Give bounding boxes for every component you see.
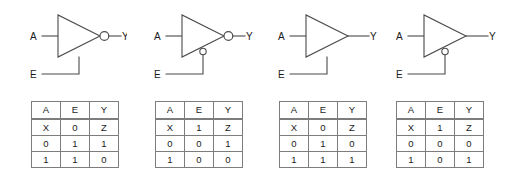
enable-wire-e — [290, 57, 327, 74]
cell-y: 1 — [338, 152, 367, 168]
table-row: 1 1 1 — [280, 152, 367, 168]
enable-label-e: E — [278, 69, 285, 80]
cell-y: 1 — [90, 136, 119, 152]
cell-e: 1 — [61, 152, 90, 168]
table-row: 0 0 1 — [156, 136, 243, 152]
cell-e: 1 — [426, 119, 455, 136]
enable-bubble-icon — [200, 48, 206, 54]
gate-body-triangle — [58, 15, 100, 57]
truth-table-gate-4: A E Y X 1 Z 0 0 0 1 0 — [396, 101, 484, 168]
cell-y: Z — [90, 119, 119, 136]
gate-cell-2: A E Y A E Y X 1 Z 0 — [126, 0, 253, 174]
cell-a: 1 — [280, 152, 309, 168]
truth-table-gate-3: A E Y X 0 Z 0 1 0 1 1 — [279, 101, 367, 168]
enable-bubble-icon — [442, 48, 448, 54]
cell-y: 1 — [455, 152, 484, 168]
cell-y: 0 — [338, 136, 367, 152]
cell-a: 0 — [156, 136, 185, 152]
table-row: X 0 Z — [280, 119, 367, 136]
table-row: X 1 Z — [156, 119, 243, 136]
cell-e: 0 — [309, 119, 338, 136]
enable-wire-e — [166, 55, 203, 74]
column-header-y: Y — [338, 102, 367, 120]
enable-label-e: E — [154, 69, 161, 80]
column-header-y: Y — [90, 102, 119, 120]
column-header-e: E — [185, 102, 214, 120]
cell-a: 0 — [280, 136, 309, 152]
gate-body-triangle — [306, 15, 348, 57]
column-header-a: A — [32, 102, 61, 120]
input-label-a: A — [30, 31, 37, 42]
column-header-e: E — [426, 102, 455, 120]
table-row: 0 1 0 — [280, 136, 367, 152]
column-header-a: A — [156, 102, 185, 120]
cell-a: X — [397, 119, 426, 136]
output-label-y: Y — [489, 31, 496, 42]
gate-cell-1: A E Y A E Y X 0 Z 0 — [0, 0, 127, 174]
output-bubble-icon — [100, 32, 109, 41]
cell-a: 1 — [397, 152, 426, 168]
table-row: 0 1 1 — [32, 136, 119, 152]
schematic-gate-1: A E Y — [0, 0, 127, 96]
output-label-y: Y — [370, 31, 377, 42]
enable-label-e: E — [396, 69, 403, 80]
enable-wire-e — [408, 55, 445, 74]
schematic-gate-3: A E Y — [252, 0, 379, 96]
table-header-row: A E Y — [397, 102, 484, 120]
cell-y: 0 — [455, 136, 484, 152]
truth-table-gate-2: A E Y X 1 Z 0 0 1 1 0 — [155, 101, 243, 168]
cell-a: 1 — [32, 152, 61, 168]
cell-a: 1 — [156, 152, 185, 168]
cell-a: 0 — [397, 136, 426, 152]
cell-e: 0 — [185, 136, 214, 152]
cell-e: 0 — [61, 119, 90, 136]
column-header-a: A — [280, 102, 309, 120]
column-header-a: A — [397, 102, 426, 120]
cell-y: Z — [338, 119, 367, 136]
column-header-e: E — [309, 102, 338, 120]
cell-y: 1 — [214, 136, 243, 152]
table-row: X 1 Z — [397, 119, 484, 136]
table-row: 1 0 0 — [156, 152, 243, 168]
column-header-y: Y — [214, 102, 243, 120]
cell-y: Z — [455, 119, 484, 136]
output-bubble-icon — [224, 32, 233, 41]
cell-y: 0 — [214, 152, 243, 168]
schematic-gate-2: A E Y — [126, 0, 253, 96]
cell-e: 1 — [309, 136, 338, 152]
cell-y: 0 — [90, 152, 119, 168]
cell-e: 0 — [426, 136, 455, 152]
table-header-row: A E Y — [32, 102, 119, 120]
truth-table-gate-1: A E Y X 0 Z 0 1 1 1 1 — [31, 101, 119, 168]
cell-y: Z — [214, 119, 243, 136]
cell-a: X — [32, 119, 61, 136]
table-header-row: A E Y — [280, 102, 367, 120]
table-row: 1 0 1 — [397, 152, 484, 168]
cell-e: 1 — [185, 119, 214, 136]
table-header-row: A E Y — [156, 102, 243, 120]
cell-e: 0 — [185, 152, 214, 168]
cell-a: X — [156, 119, 185, 136]
column-header-y: Y — [455, 102, 484, 120]
schematic-gate-4: A E Y — [378, 0, 505, 96]
cell-a: 0 — [32, 136, 61, 152]
enable-wire-e — [42, 57, 79, 74]
input-label-a: A — [154, 31, 161, 42]
table-row: 0 0 0 — [397, 136, 484, 152]
gate-cell-4: A E Y A E Y X 1 Z 0 — [378, 0, 505, 174]
enable-label-e: E — [30, 69, 37, 80]
column-header-e: E — [61, 102, 90, 120]
cell-e: 1 — [61, 136, 90, 152]
cell-a: X — [280, 119, 309, 136]
tristate-buffer-figure: A E Y A E Y X 0 Z 0 — [0, 0, 507, 174]
gate-cell-3: A E Y A E Y X 0 Z 0 — [252, 0, 379, 174]
table-row: X 0 Z — [32, 119, 119, 136]
cell-e: 0 — [426, 152, 455, 168]
table-row: 1 1 0 — [32, 152, 119, 168]
input-label-a: A — [278, 31, 285, 42]
input-label-a: A — [396, 31, 403, 42]
cell-e: 1 — [309, 152, 338, 168]
